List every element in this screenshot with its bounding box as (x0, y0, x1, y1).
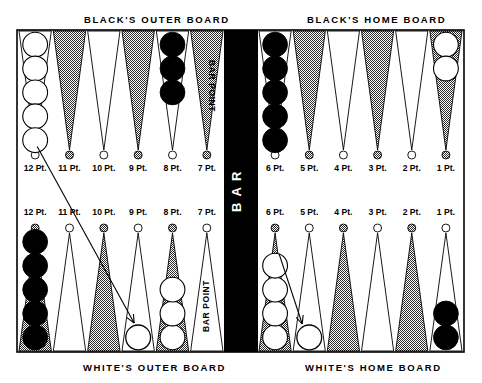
point-label: 9 Pt. (129, 163, 147, 173)
point-label: 6 Pt. (266, 207, 284, 217)
checker-white (23, 32, 48, 57)
checker-black (160, 32, 185, 57)
point-label: 2 Pt. (403, 163, 421, 173)
point-label: 8 Pt. (163, 163, 181, 173)
checker-black (160, 56, 185, 81)
checker-black (263, 128, 288, 153)
checker-white (263, 277, 288, 302)
point-label: 10 Pt. (92, 163, 115, 173)
point-tip-marker (271, 224, 279, 232)
checker-black (23, 229, 48, 254)
point-label: 11 Pt. (58, 163, 80, 173)
checker-black (263, 32, 288, 57)
checker-white (23, 56, 48, 81)
bar-text: B A R (229, 170, 244, 212)
checker-black (434, 325, 459, 350)
checker-white (434, 56, 459, 81)
checker-black (263, 80, 288, 105)
checker-white (23, 104, 48, 129)
checker-black (263, 56, 288, 81)
point-tip-marker (408, 224, 416, 232)
point-tip-marker (203, 151, 211, 159)
checker-white (434, 32, 459, 57)
checker-white (160, 301, 185, 326)
point-tip-marker (169, 224, 177, 232)
checker-white (263, 253, 288, 278)
point-tip-marker (374, 151, 382, 159)
point-label: 3 Pt. (369, 163, 387, 173)
point-tip-marker (339, 151, 347, 159)
point-tip-marker (169, 151, 177, 159)
point-tip-marker (134, 151, 142, 159)
svg-text:BAR POINT: BAR POINT (201, 280, 211, 332)
checker-black (23, 277, 48, 302)
checker-black (434, 301, 459, 326)
point-tip-marker (203, 224, 211, 232)
point-label: 4 Pt. (334, 207, 352, 217)
checker-black (23, 253, 48, 278)
point-tip-marker (442, 224, 450, 232)
point-tip-marker (374, 224, 382, 232)
point-label: 1 Pt. (437, 163, 455, 173)
point-tip-marker (66, 151, 74, 159)
point-label: 12 Pt. (24, 163, 47, 173)
backgammon-board-figure: BLACK'S OUTER BOARD BLACK'S HOME BOARD W… (0, 0, 482, 383)
point-label: 12 Pt. (24, 207, 47, 217)
checker-white (23, 80, 48, 105)
checker-white (263, 301, 288, 326)
board-graphic: BAR POINT BAR POINT B A R 12 Pt.11 Pt.10… (0, 0, 482, 383)
checker-black (160, 80, 185, 105)
point-label: 7 Pt. (198, 207, 216, 217)
point-label: 9 Pt. (129, 207, 147, 217)
point-label: 7 Pt. (198, 163, 216, 173)
point-tip-marker (305, 151, 313, 159)
checker-white (160, 325, 185, 350)
bar-point-label-top: BAR POINT (207, 60, 217, 112)
point-tip-marker (305, 224, 313, 232)
checker-black (23, 325, 48, 350)
point-tip-marker (66, 224, 74, 232)
point-tip-marker (100, 224, 108, 232)
point-tip-marker (408, 151, 416, 159)
point-label: 4 Pt. (334, 163, 352, 173)
point-label: 2 Pt. (403, 207, 421, 217)
svg-text:BAR POINT: BAR POINT (207, 60, 217, 112)
point-label: 3 Pt. (369, 207, 387, 217)
point-label: 5 Pt. (300, 207, 318, 217)
point-tip-marker (100, 151, 108, 159)
point-label: 10 Pt. (92, 207, 115, 217)
point-label: 6 Pt. (266, 163, 284, 173)
checker-white (160, 277, 185, 302)
point-label: 11 Pt. (58, 207, 80, 217)
point-tip-marker (134, 224, 142, 232)
point-label: 8 Pt. (163, 207, 181, 217)
checker-black (23, 301, 48, 326)
point-label: 1 Pt. (437, 207, 455, 217)
svg-text:B A R: B A R (229, 170, 244, 212)
point-tip-marker (339, 224, 347, 232)
checker-white (263, 325, 288, 350)
point-label: 5 Pt. (300, 163, 318, 173)
checker-white (23, 128, 48, 153)
bar-point-label-bottom: BAR POINT (201, 280, 211, 332)
point-tip-marker (442, 151, 450, 159)
checker-black (263, 104, 288, 129)
